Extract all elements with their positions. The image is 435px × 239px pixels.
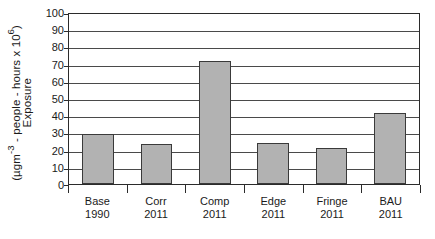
x-axis-category-label: Comp2011 xyxy=(185,195,244,235)
y-axis-tick-label: 80 xyxy=(38,42,64,53)
y-axis-title-main: Exposure xyxy=(22,78,34,127)
category-separator xyxy=(420,185,421,193)
bar-slot xyxy=(302,14,360,184)
plot-area xyxy=(68,13,420,185)
category-separator xyxy=(127,185,128,193)
bars-layer xyxy=(69,14,419,184)
x-axis-category-year: 2011 xyxy=(185,208,244,221)
bar-comp[interactable] xyxy=(199,61,230,184)
y-axis-tick-label: 10 xyxy=(38,162,64,173)
bar-bau[interactable] xyxy=(374,113,405,184)
y-axis-tick-label: 70 xyxy=(38,59,64,70)
x-axis-category-name: Comp xyxy=(185,195,244,208)
x-axis-labels: Base1990Corr2011Comp2011Edge2011Fringe20… xyxy=(68,195,420,235)
y-axis-title-units: (µgm-3 - people - hours x 106) xyxy=(6,25,22,181)
x-axis-category-year: 2011 xyxy=(361,208,420,221)
y-axis-tick-label: 60 xyxy=(38,76,64,87)
y-axis-tick-label: 90 xyxy=(38,25,64,36)
x-axis-category-year: 2011 xyxy=(303,208,362,221)
category-separators xyxy=(68,185,420,193)
x-axis-category-label: Base1990 xyxy=(68,195,127,235)
x-axis-category-label: Fringe2011 xyxy=(303,195,362,235)
category-separator xyxy=(244,185,245,193)
y-axis-units-prefix: (µgm xyxy=(10,154,22,181)
category-separator xyxy=(303,185,304,193)
bar-slot xyxy=(69,14,127,184)
bar-slot xyxy=(244,14,302,184)
x-axis-category-label: Edge2011 xyxy=(244,195,303,235)
bar-edge[interactable] xyxy=(257,143,288,184)
y-axis-tick-labels: 1009080706050403020100 xyxy=(38,13,64,185)
bar-chart-figure: (µgm-3 - people - hours x 106) Exposure … xyxy=(0,0,435,239)
y-axis-title: (µgm-3 - people - hours x 106) Exposure xyxy=(0,0,40,205)
bar-base[interactable] xyxy=(82,134,113,184)
category-separator xyxy=(68,185,69,193)
category-separator xyxy=(185,185,186,193)
y-axis-tick-label: 20 xyxy=(38,145,64,156)
bar-slot xyxy=(127,14,185,184)
x-axis-category-name: Base xyxy=(68,195,127,208)
x-axis-category-name: Edge xyxy=(244,195,303,208)
y-axis-tick-label: 100 xyxy=(38,8,64,19)
y-axis-tick-label: 50 xyxy=(38,94,64,105)
bar-corr[interactable] xyxy=(141,144,172,184)
y-axis-units-exponent-1: -3 xyxy=(5,145,16,154)
y-axis-tick-label: 30 xyxy=(38,128,64,139)
x-axis-category-label: BAU2011 xyxy=(361,195,420,235)
x-axis-category-label: Corr2011 xyxy=(127,195,186,235)
x-axis-category-year: 2011 xyxy=(244,208,303,221)
y-axis-units-suffix: ) xyxy=(10,25,22,29)
y-axis-tick-label: 0 xyxy=(38,180,64,191)
x-axis-category-year: 2011 xyxy=(127,208,186,221)
category-separator xyxy=(361,185,362,193)
bar-slot xyxy=(361,14,419,184)
bar-fringe[interactable] xyxy=(316,148,347,184)
y-axis-units-exponent-2: 6 xyxy=(5,29,16,34)
y-axis-tick-label: 40 xyxy=(38,111,64,122)
x-axis-category-name: BAU xyxy=(361,195,420,208)
x-axis-category-name: Corr xyxy=(127,195,186,208)
bar-slot xyxy=(186,14,244,184)
x-axis-category-name: Fringe xyxy=(303,195,362,208)
x-axis-category-year: 1990 xyxy=(68,208,127,221)
